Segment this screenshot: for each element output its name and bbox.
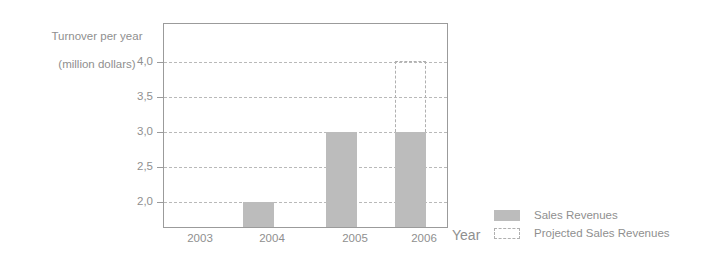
y-tick-label-4-0: 4,0 (113, 56, 153, 68)
x-tick-label-2005: 2005 (325, 232, 385, 244)
legend-item-projected-sales-revenues: Projected Sales Revenues (494, 224, 670, 242)
bar-2006-projected-sales-revenues (395, 61, 426, 132)
y-tick-label-2-5: 2,5 (113, 161, 153, 173)
y-axis-tick-3-5 (157, 97, 163, 98)
x-axis-title: Year (452, 227, 480, 243)
y-axis-title-line-1: Turnover per year (52, 30, 143, 42)
legend-label-projected-sales-revenues: Projected Sales Revenues (534, 227, 670, 240)
x-tick-label-2006: 2006 (394, 232, 454, 244)
solid-gray-swatch-icon (494, 210, 520, 221)
x-tick-label-2004: 2004 (242, 232, 302, 244)
y-tick-label-2-0: 2,0 (113, 196, 153, 208)
plot-area (163, 23, 448, 228)
legend-item-sales-revenues: Sales Revenues (494, 206, 670, 224)
bar-2004-sales-revenues (243, 202, 274, 227)
bar-chart-figure: Turnover per year (million dollars) 4,0 … (0, 0, 728, 261)
x-tick-label-2003: 2003 (170, 232, 230, 244)
bar-2006-sales-revenues (395, 132, 426, 227)
y-tick-label-3-5: 3,5 (113, 91, 153, 103)
dashed-outline-swatch-icon (494, 228, 520, 239)
y-axis-tick-2-0 (157, 202, 163, 203)
y-axis-tick-3-0 (157, 132, 163, 133)
chart-legend: Sales Revenues Projected Sales Revenues (494, 206, 670, 242)
y-axis-tick-4-0 (157, 62, 163, 63)
legend-label-sales-revenues: Sales Revenues (534, 209, 618, 222)
y-tick-label-3-0: 3,0 (113, 126, 153, 138)
bar-2005-sales-revenues (326, 132, 357, 227)
y-axis-tick-2-5 (157, 167, 163, 168)
